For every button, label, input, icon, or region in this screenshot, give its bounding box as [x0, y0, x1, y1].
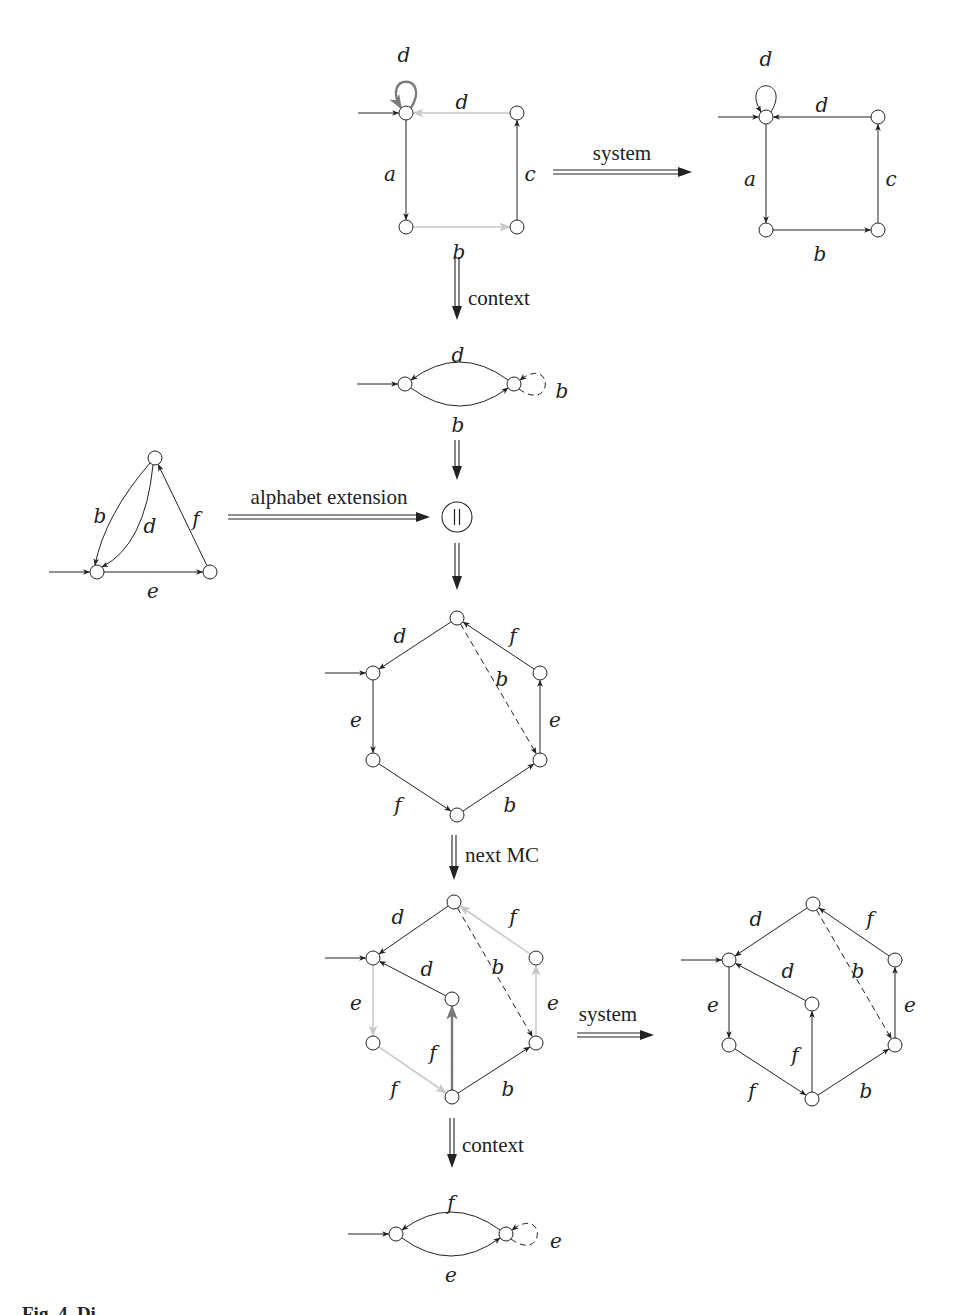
edge-t2-t3: c [878, 125, 897, 224]
state-node [447, 895, 461, 909]
edge-label: e [350, 708, 362, 732]
state-node [805, 997, 819, 1011]
edge-label: d [750, 907, 763, 931]
edge-m0-m4: b [458, 908, 533, 1036]
automaton-triangle-extension: bdfe [49, 451, 217, 603]
automata-refinement-diagram: systemcontextalphabet extensionnext MCsy… [0, 0, 958, 1315]
state-node [805, 1092, 819, 1106]
edge-label: c [885, 167, 896, 191]
transition-system-2: system [577, 1002, 654, 1040]
parallel-composition-node [442, 502, 472, 532]
automaton-hexagon-system: ddeffbefb [681, 897, 916, 1106]
edge-t3-t0: d [774, 93, 872, 117]
edge-h5-h0: f [463, 622, 534, 669]
state-node [445, 1090, 459, 1104]
edge-label: f [445, 1191, 458, 1215]
state-node-initial [681, 953, 736, 967]
transition-context-2: context [447, 1118, 524, 1168]
double-arrow-head-icon [452, 576, 462, 590]
state-node [533, 666, 547, 680]
edge-m3-m4: b [458, 1047, 530, 1101]
state-node [366, 1036, 380, 1050]
edge-c1-c0: d [411, 343, 508, 380]
edge-k0-k1: e [402, 1238, 500, 1287]
edge-n6-n1: d [736, 959, 806, 1001]
edge-m6-m1: d [380, 957, 446, 996]
state-node-initial [357, 377, 412, 391]
transition-label: alphabet extension [251, 485, 408, 509]
edge-label: e [549, 708, 561, 732]
edge-label: e [904, 993, 916, 1017]
edge-h4-h5: e [540, 681, 561, 754]
edge-t1-t2: b [773, 230, 871, 266]
edge-label: b [556, 379, 569, 403]
edge-c0-c1: b [411, 388, 508, 437]
automaton-hexagon-model-checked: ddeffbefb [325, 895, 559, 1104]
edge-label: d [394, 624, 407, 648]
edge-label: b [860, 1079, 873, 1103]
edge-label: e [550, 1229, 562, 1253]
edge-label: d [421, 957, 434, 981]
edge-label: f [190, 507, 203, 531]
double-arrow-head-icon [640, 1030, 654, 1040]
edge-n1-n2: e [707, 967, 729, 1038]
edge-h1-h2: e [350, 680, 373, 753]
state-node [510, 220, 524, 234]
edge-label: b [852, 959, 865, 983]
state-node [871, 110, 885, 124]
edge-label: b [453, 240, 466, 264]
edge-label: e [707, 993, 719, 1017]
state-node [450, 611, 464, 625]
state-node [445, 992, 459, 1006]
edge-label: d [392, 905, 405, 929]
edge-label: b [502, 1077, 515, 1101]
state-node [499, 1227, 513, 1241]
edge-n5-n0: f [819, 907, 889, 956]
edge-label: f [392, 793, 405, 817]
transition-merge-out [452, 543, 462, 590]
edge-label: a [744, 167, 756, 191]
state-node [529, 1036, 543, 1050]
edge-x1-x0: b [94, 463, 150, 565]
double-arrow-head-icon [678, 167, 692, 177]
transition-merge-in [452, 440, 462, 480]
edge-n3-n4: b [818, 1049, 889, 1103]
state-node [806, 897, 820, 911]
edge-h0-h4: b [461, 624, 537, 753]
edge-s3-s0: d [414, 90, 511, 114]
state-node [888, 953, 902, 967]
transition-system-1: system [553, 141, 692, 177]
state-node [203, 565, 217, 579]
edge-label: b [504, 793, 517, 817]
edge-label: d [398, 43, 411, 67]
edge-m0-m1: d [379, 905, 448, 954]
state-node [510, 106, 524, 120]
state-node-initial [718, 110, 773, 124]
state-node [871, 223, 885, 237]
edge-h3-h4: b [463, 764, 534, 817]
state-node-initial [325, 666, 380, 680]
state-node [888, 1038, 902, 1052]
edge-label: f [507, 905, 520, 929]
edge-h0-h1: d [379, 622, 451, 669]
edge-m4-m5: e [536, 966, 559, 1037]
state-node [722, 1038, 736, 1052]
state-node [148, 451, 162, 465]
state-node-initial [49, 565, 104, 579]
automaton-square-model-checked: ddabc [358, 43, 536, 264]
edge-n4-n5: e [895, 968, 916, 1039]
edge-x2-x1: f [158, 465, 207, 566]
edge-label: d [452, 343, 465, 367]
edge-label: d [456, 90, 469, 114]
edge-label: f [746, 1079, 759, 1103]
transition-next-mc: next MC [449, 835, 539, 880]
edge-x1-x0: d [102, 465, 156, 567]
state-node [399, 220, 413, 234]
edge-n3-n6: f [789, 1012, 812, 1093]
transition-label: next MC [465, 843, 539, 867]
automaton-context-2-automaton: fee [348, 1191, 562, 1287]
edge-label: e [350, 991, 362, 1015]
edge-label: b [814, 242, 827, 266]
transition-label: context [462, 1133, 524, 1157]
edge-k1-k0: f [402, 1191, 500, 1230]
